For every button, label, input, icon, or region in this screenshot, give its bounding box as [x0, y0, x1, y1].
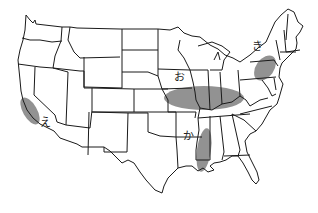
region-o — [164, 86, 244, 110]
label-e: え — [40, 117, 51, 128]
label-ki: き — [252, 41, 263, 52]
state-borders — [18, 14, 300, 168]
region-ki — [250, 51, 281, 84]
label-o: お — [174, 72, 185, 83]
us-map: お か き え — [0, 0, 318, 213]
label-ka: か — [183, 131, 194, 142]
us-outline — [18, 9, 303, 193]
region-ka — [194, 127, 214, 173]
us-map-svg — [0, 0, 318, 213]
